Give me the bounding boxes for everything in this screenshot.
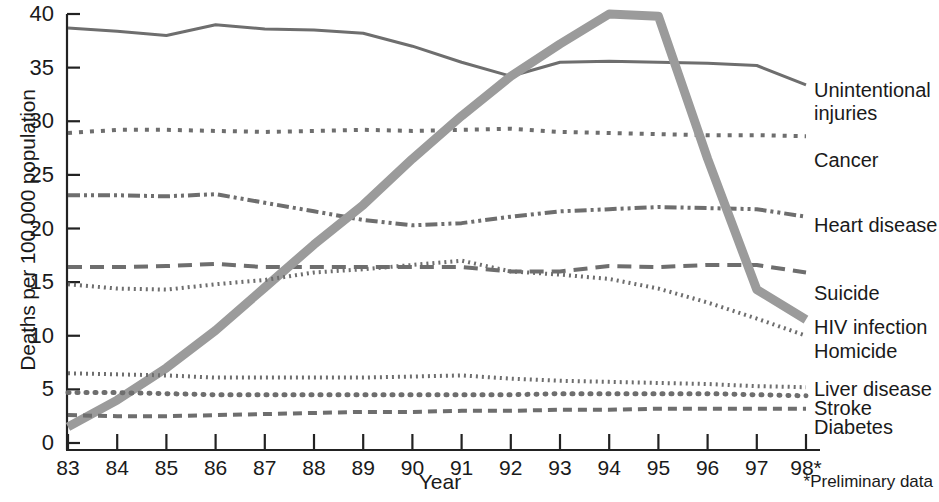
y-axis-tick-label: 5 [8,378,54,400]
series-label-3: Suicide [814,283,880,304]
series-label-2: Heart disease [814,215,937,236]
y-axis-tick-label: 20 [8,218,54,240]
x-axis-tick-label: 95 [633,457,683,478]
x-axis-tick-label: 86 [191,457,241,478]
x-axis-tick-label: 90 [387,457,437,478]
x-axis-tick-label: 97 [732,457,782,478]
x-axis-tick-label: 85 [141,457,191,478]
y-axis-tick-label: 35 [8,57,54,79]
x-axis-tick-label: 94 [584,457,634,478]
x-axis-tick-label: 92 [486,457,536,478]
series-label-0: Unintentional [814,80,931,101]
x-axis-tick-label: 91 [437,457,487,478]
y-axis-tick-label: 15 [8,271,54,293]
series-label-4: HIV infection [814,317,927,338]
x-axis-tick-label: 93 [535,457,585,478]
series-label-0-line2: injuries [814,103,877,124]
x-axis-tick-label: 89 [338,457,388,478]
y-axis-tick-label: 25 [8,164,54,186]
x-axis-tick-label: 98* [781,457,831,478]
y-axis-tick-label: 0 [8,432,54,454]
series-line-4 [68,14,806,427]
x-axis-tick-label: 83 [43,457,93,478]
series-line-8 [68,409,806,417]
y-axis-tick-label: 40 [8,3,54,25]
series-line-5 [68,261,806,336]
x-axis-tick-label: 84 [92,457,142,478]
series-line-0 [68,25,806,85]
y-axis-tick-label: 10 [8,325,54,347]
series-line-3 [68,264,806,273]
series-line-7 [68,393,806,396]
series-label-8: Diabetes [814,417,893,438]
death-rate-line-chart: Deaths per 100,000 population Year *Prel… [0,0,939,502]
series-label-1: Cancer [814,150,878,171]
plot-area [0,0,939,502]
x-axis-tick-label: 96 [683,457,733,478]
series-label-5: Homicide [814,341,897,362]
series-line-2 [68,194,806,225]
y-axis-tick-label: 30 [8,110,54,132]
x-axis-tick-label: 87 [240,457,290,478]
series-line-6 [68,373,806,387]
x-axis-tick-label: 88 [289,457,339,478]
